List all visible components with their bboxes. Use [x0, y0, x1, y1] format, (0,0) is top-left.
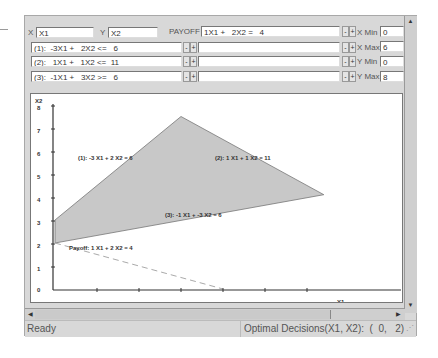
ymax-label: Y Max [357, 71, 380, 82]
svg-text:3: 3 [37, 220, 41, 226]
lp-chart: X2 8 7 6 5 4 3 2 1 0 0 1 2 3 4 5 6 X1 [31, 94, 402, 302]
constraint-6-input[interactable] [198, 71, 340, 82]
ymax-input[interactable]: 8 [380, 71, 404, 82]
svg-text:5: 5 [263, 301, 267, 302]
y-axis-label: Y [100, 27, 105, 38]
constraint-1-annotation: (1): -3 X1 + 2 X2 = 6 [78, 155, 133, 161]
xmin-label: X Min [357, 27, 377, 38]
xmax-label: X Max [357, 42, 380, 53]
status-ready: Ready [27, 321, 56, 337]
vertical-scrollbar[interactable]: ▲ ▼ [404, 16, 417, 313]
constraint-3-plus-button[interactable]: + [190, 71, 197, 82]
decorative-dash [0, 29, 8, 30]
constraint-3-annotation: (3): -1 X1 + -3 X2 = 6 [165, 212, 222, 218]
svg-text:0: 0 [37, 287, 41, 293]
constraint-2-minus-button[interactable]: - [183, 56, 190, 67]
svg-text:1: 1 [95, 301, 99, 302]
y-variable-input[interactable]: X2 [108, 27, 158, 38]
constraint-5-minus-button[interactable]: - [342, 56, 349, 67]
optimal-decisions-status: Optimal Decisions(X1, X2): ( 0, 2) [240, 321, 414, 337]
horizontal-scrollbar[interactable]: ◀ ▶ [25, 308, 405, 320]
ymin-input[interactable]: 0 [380, 56, 404, 67]
svg-text:4: 4 [37, 197, 41, 203]
resize-grip-icon[interactable]: ⋰ [406, 320, 414, 336]
x-variable-input[interactable]: X1 [36, 27, 94, 38]
constraint-1-minus-button[interactable]: - [183, 42, 190, 53]
status-bar: Ready Optimal Decisions(X1, X2): ( 0, 2)… [25, 320, 416, 337]
payoff-label: PAYOFF [169, 26, 200, 37]
svg-text:2: 2 [137, 301, 141, 302]
constraint-2-plus-button[interactable]: + [190, 56, 197, 67]
y-axis-title: X2 [35, 98, 43, 104]
payoff-annotation: Payoff: 1 X1 + 2 X2 = 4 [69, 245, 133, 251]
xmax-input[interactable]: 6 [380, 41, 404, 52]
svg-text:8: 8 [37, 105, 41, 111]
scroll-down-icon[interactable]: ▼ [405, 300, 416, 311]
constraint-1-plus-button[interactable]: + [190, 42, 197, 53]
constraint-3-input[interactable]: (3): -1X1 + 3X2 >= 6 [31, 71, 182, 82]
constraint-1-input[interactable]: (1): -3X1 + 2X2 <= 6 [31, 42, 182, 53]
svg-text:1: 1 [37, 266, 41, 272]
horizontal-scroll-thumb[interactable] [35, 310, 331, 319]
lp-graph-window: X X1 Y X2 PAYOFF 1X1 + 2X2 = 4 - + (1): … [24, 15, 417, 336]
x-axis-label: X [28, 27, 33, 38]
payoff-input[interactable]: 1X1 + 2X2 = 4 [201, 26, 340, 37]
svg-text:0: 0 [53, 301, 57, 302]
svg-text:4: 4 [221, 301, 225, 302]
feasible-region [55, 117, 324, 244]
xmin-input[interactable]: 0 [380, 26, 404, 37]
constraint-4-input[interactable] [198, 42, 340, 53]
svg-text:7: 7 [37, 128, 41, 134]
scroll-left-icon[interactable]: ◀ [25, 309, 35, 320]
payoff-minus-button[interactable]: - [342, 26, 349, 37]
constraint-4-minus-button[interactable]: - [342, 42, 349, 53]
constraint-2-input[interactable]: (2): 1X1 + 1X2 <= 11 [31, 56, 182, 67]
x-axis-title: X1 [337, 299, 345, 302]
constraint-4-plus-button[interactable]: + [349, 42, 356, 53]
svg-text:3: 3 [179, 301, 183, 302]
svg-text:5: 5 [37, 174, 41, 180]
constraint-6-minus-button[interactable]: - [342, 71, 349, 82]
constraint-3-minus-button[interactable]: - [183, 71, 190, 82]
payoff-plus-button[interactable]: + [349, 26, 356, 37]
svg-text:2: 2 [37, 243, 41, 249]
scroll-up-icon[interactable]: ▲ [405, 16, 416, 27]
ymin-label: Y Min [357, 56, 377, 67]
constraint-5-input[interactable] [198, 56, 340, 67]
constraint-5-plus-button[interactable]: + [349, 56, 356, 67]
constraint-6-plus-button[interactable]: + [349, 71, 356, 82]
constraint-2-annotation: (2): 1 X1 + 1 X2 = 11 [215, 155, 271, 161]
svg-text:6: 6 [305, 301, 309, 302]
svg-text:6: 6 [37, 151, 41, 157]
lp-graph-plot: X2 8 7 6 5 4 3 2 1 0 0 1 2 3 4 5 6 X1 [30, 93, 403, 303]
scroll-right-icon[interactable]: ▶ [393, 309, 403, 320]
